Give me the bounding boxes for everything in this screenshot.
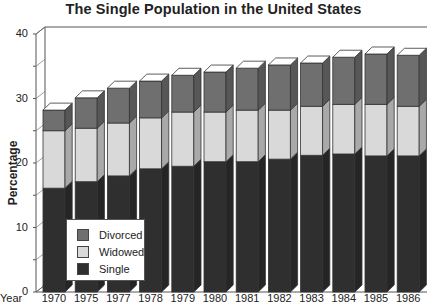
bar-segment-single bbox=[172, 166, 194, 292]
bar-segment-widowed bbox=[107, 123, 129, 176]
bar-1983 bbox=[301, 56, 330, 292]
bar-segment-divorced bbox=[236, 68, 258, 110]
bar-1982 bbox=[268, 58, 297, 292]
y-tick-label: 0 bbox=[0, 285, 28, 297]
legend-swatch-widowed bbox=[77, 246, 89, 258]
bar-segment-widowed bbox=[268, 110, 290, 159]
bar-segment-widowed bbox=[365, 104, 387, 156]
bar-segment-divorced bbox=[397, 55, 419, 106]
x-tick-label: 1981 bbox=[232, 292, 262, 304]
bar-1984 bbox=[333, 50, 362, 292]
bar-segment-widowed bbox=[236, 110, 258, 162]
x-tick-label: 1986 bbox=[393, 292, 423, 304]
legend-item-divorced: Divorced bbox=[77, 228, 142, 242]
bar-segment-widowed bbox=[140, 118, 162, 169]
legend-swatch-single bbox=[77, 263, 89, 275]
bar-segment-widowed bbox=[172, 112, 194, 166]
y-tick-label: 30 bbox=[0, 92, 28, 104]
bar-1986 bbox=[397, 48, 426, 292]
legend-item-widowed: Widowed bbox=[77, 245, 144, 259]
bar-1981 bbox=[236, 61, 265, 292]
bar-segment-single bbox=[204, 162, 226, 292]
bar-segment-divorced bbox=[172, 75, 194, 112]
bar-segment-divorced bbox=[301, 63, 323, 106]
y-tick-label: 40 bbox=[0, 27, 28, 39]
x-tick-label: 1978 bbox=[136, 292, 166, 304]
legend-label: Single bbox=[99, 263, 130, 275]
bar-segment-single bbox=[301, 155, 323, 292]
bar-segment-single bbox=[43, 188, 65, 292]
bar-1980 bbox=[204, 65, 233, 292]
bar-segment-widowed bbox=[333, 104, 355, 154]
bar-segment-divorced bbox=[75, 98, 97, 128]
y-tick-label: 10 bbox=[0, 221, 28, 233]
bar-1985 bbox=[365, 47, 394, 292]
y-axis-label: Percentage bbox=[6, 138, 20, 208]
x-tick-label: 1970 bbox=[39, 292, 69, 304]
legend-label: Divorced bbox=[99, 229, 142, 241]
bar-segment-divorced bbox=[333, 57, 355, 104]
legend-item-single: Single bbox=[77, 262, 130, 276]
bar-segment-widowed bbox=[397, 106, 419, 156]
y-tick-label: 20 bbox=[0, 156, 28, 168]
bar-segment-divorced bbox=[204, 72, 226, 112]
x-tick-label: 1979 bbox=[168, 292, 198, 304]
legend-label: Widowed bbox=[99, 246, 144, 258]
bar-segment-divorced bbox=[43, 110, 65, 131]
plot-area bbox=[0, 0, 427, 305]
bar-segment-divorced bbox=[107, 88, 129, 123]
bar-segment-widowed bbox=[301, 106, 323, 155]
legend: Divorced Widowed Single bbox=[66, 219, 145, 281]
bar-segment-divorced bbox=[268, 65, 290, 110]
bar-segment-single bbox=[236, 162, 258, 292]
x-tick-label: 1980 bbox=[200, 292, 230, 304]
x-tick-label: 1984 bbox=[329, 292, 359, 304]
bar-segment-widowed bbox=[75, 128, 97, 182]
bar-segment-divorced bbox=[140, 81, 162, 118]
bar-segment-widowed bbox=[204, 112, 226, 162]
bar-segment-single bbox=[333, 154, 355, 292]
bar-segment-single bbox=[397, 156, 419, 292]
x-tick-label: 1985 bbox=[361, 292, 391, 304]
bar-segment-single bbox=[268, 159, 290, 292]
x-tick-label: 1977 bbox=[103, 292, 133, 304]
bar-segment-divorced bbox=[365, 54, 387, 104]
x-tick-label: 1983 bbox=[297, 292, 327, 304]
legend-swatch-divorced bbox=[77, 229, 89, 241]
bar-1979 bbox=[172, 68, 201, 292]
x-tick-label: 1982 bbox=[264, 292, 294, 304]
x-tick-label: 1975 bbox=[71, 292, 101, 304]
bar-segment-single bbox=[365, 156, 387, 292]
bar-segment-widowed bbox=[43, 131, 65, 188]
